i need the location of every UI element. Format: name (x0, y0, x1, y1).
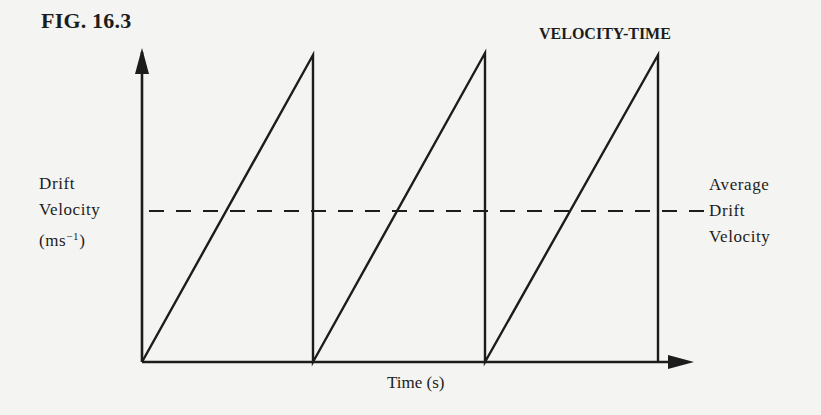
avg-label-line-2: Drift (709, 198, 770, 224)
y-axis-arrow-icon (135, 48, 149, 74)
velocity-time-plot (0, 0, 821, 415)
y-unit-superscript: −1 (66, 230, 79, 242)
x-axis-arrow-icon (668, 355, 694, 369)
avg-label-line-1: Average (709, 172, 770, 198)
average-drift-velocity-label: Average Drift Velocity (709, 172, 770, 250)
y-axis-label-line-2: Velocity (39, 197, 100, 223)
y-axis-unit: (ms−1) (39, 223, 100, 254)
y-axis-label: Drift Velocity (ms−1) (39, 171, 100, 254)
y-axis-label-line-1: Drift (39, 171, 100, 197)
y-unit-prefix: (ms (39, 231, 66, 250)
x-axis-label: Time (s) (387, 373, 444, 393)
y-unit-suffix: ) (79, 231, 85, 250)
avg-label-line-3: Velocity (709, 224, 770, 250)
drift-velocity-sawtooth (142, 53, 658, 362)
